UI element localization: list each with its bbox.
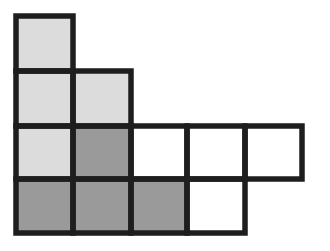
grid-cell-light xyxy=(16,126,73,179)
grid-cell-dark xyxy=(73,126,131,179)
grid-cell-dark xyxy=(16,179,73,233)
grid-cell-white xyxy=(187,179,245,233)
staircase-grid xyxy=(0,0,330,251)
grid-cell-white xyxy=(187,126,245,179)
grid-cell-light xyxy=(16,71,73,126)
grid-cell-light xyxy=(73,71,131,126)
grid-cell-light xyxy=(16,16,73,71)
grid-cell-white xyxy=(245,126,302,179)
grid-cell-dark xyxy=(131,179,187,233)
grid-cell-white xyxy=(131,126,187,179)
grid-cell-dark xyxy=(73,179,131,233)
